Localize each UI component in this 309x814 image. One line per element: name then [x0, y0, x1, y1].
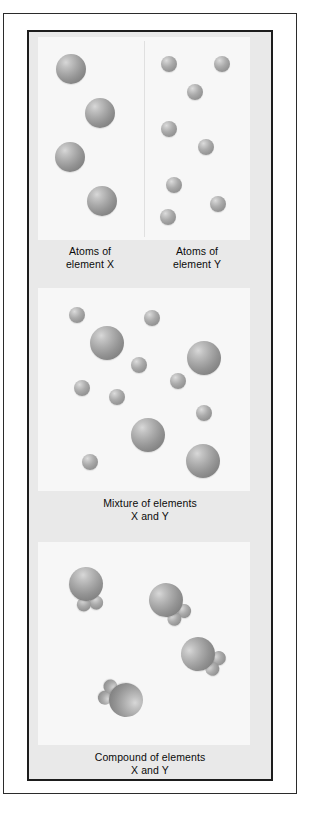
caption-line-2: element X	[38, 258, 142, 271]
section-mixture: Mixture of elements X and Y	[29, 282, 271, 536]
caption-line-1: Mixture of elements	[29, 497, 271, 510]
atom-y-sphere	[198, 139, 214, 155]
mixture-atom-y-sphere	[131, 357, 147, 373]
caption-line-2: X and Y	[29, 510, 271, 523]
atom-x-sphere	[85, 98, 115, 128]
section-compound: Compound of elements X and Y	[29, 536, 271, 779]
atom-y-sphere	[214, 56, 230, 72]
mixture-atom-x-sphere	[187, 341, 221, 375]
atom-y-sphere	[166, 177, 182, 193]
caption-line-1: Atoms of	[144, 245, 250, 258]
mixture-atom-y-sphere	[170, 373, 186, 389]
mixture-atom-y-sphere	[69, 307, 85, 323]
stage-elements	[38, 37, 250, 240]
mixture-atom-y-sphere	[144, 310, 160, 326]
atom-y-sphere	[161, 121, 177, 137]
caption-compound: Compound of elements X and Y	[29, 751, 271, 777]
mixture-atom-x-sphere	[90, 326, 124, 360]
mixture-atom-y-sphere	[109, 389, 125, 405]
stage-compound	[38, 542, 250, 745]
caption-line-2: X and Y	[29, 764, 271, 777]
stage-mixture	[38, 288, 250, 491]
diagram-plate: Atoms of element X Atoms of element Y Mi…	[27, 30, 273, 781]
caption-atoms-element-y: Atoms of element Y	[144, 245, 250, 271]
figure-root: Atoms of element X Atoms of element Y Mi…	[0, 0, 309, 814]
atom-y-sphere	[210, 196, 226, 212]
caption-mixture: Mixture of elements X and Y	[29, 497, 271, 523]
atom-y-sphere	[160, 209, 176, 225]
mixture-atom-y-sphere	[74, 380, 90, 396]
atom-y-sphere	[187, 84, 203, 100]
mixture-atom-y-sphere	[196, 405, 212, 421]
atom-x-sphere	[55, 142, 85, 172]
mixture-atom-y-sphere	[82, 454, 98, 470]
atom-y-sphere	[161, 56, 177, 72]
caption-line-1: Compound of elements	[29, 751, 271, 764]
mixture-atom-x-sphere	[186, 444, 220, 478]
section-elements: Atoms of element X Atoms of element Y	[29, 32, 271, 282]
atom-x-sphere	[56, 54, 86, 84]
caption-atoms-element-x: Atoms of element X	[38, 245, 142, 271]
caption-line-2: element Y	[144, 258, 250, 271]
caption-line-1: Atoms of	[38, 245, 142, 258]
atom-x-sphere	[87, 186, 117, 216]
panel-divider	[144, 41, 145, 237]
mixture-atom-x-sphere	[131, 418, 165, 452]
